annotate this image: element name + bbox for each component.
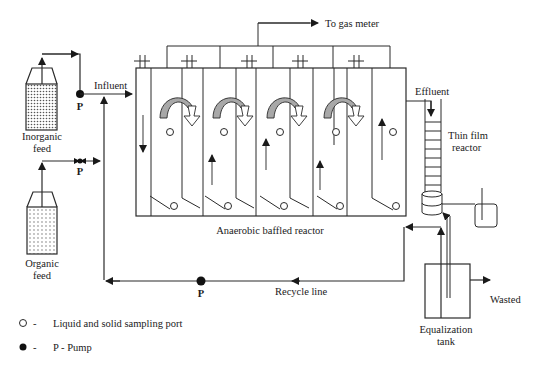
wasted-label: Wasted [490,294,521,305]
legend-dash-2: - [33,342,37,353]
legend-sampling-port: Liquid and solid sampling port [53,318,183,329]
pump-label-2: P [77,166,84,177]
filled-circle-icon [20,344,27,351]
abr-label: Anaerobic baffled reactor [216,225,324,236]
reactor-vent-markers [134,55,364,68]
open-circle-icon [20,320,27,327]
organic-feed-tank [27,161,100,254]
thin-film-label: Thin film [448,130,488,141]
side-vessel [475,204,497,227]
inorganic-feed-label: Inorganic [22,131,62,142]
organic-feed-label-2: feed [33,270,52,281]
vertical-flow-arrows [143,115,382,190]
pump-icon [197,277,206,286]
pump-icon [74,158,86,164]
legend: - Liquid and solid sampling port - P - P… [20,318,183,353]
organic-feed-label: Organic [25,258,59,269]
pump-label-1: P [77,101,84,112]
equalization-tank-label: Equalization [419,324,473,335]
influent-label: Influent [94,80,127,91]
inorganic-feed-label-2: feed [33,143,52,154]
thin-film-reactor [422,99,442,215]
gas-meter-label: To gas meter [325,18,380,29]
equalization-tank-label-2: tank [437,336,456,347]
legend-pump: P - Pump [53,342,92,353]
anaerobic-baffled-reactor [136,68,406,216]
pump-label-3: P [198,288,205,299]
flow-curve-arrows [160,98,364,126]
inorganic-feed-tank [26,54,80,130]
sampling-ports [167,129,400,210]
effluent-label: Effluent [415,86,449,97]
recycle-label: Recycle line [275,286,328,297]
effluent-line [406,101,431,112]
thin-film-label-2: reactor [452,142,482,153]
process-diagram: Inorganic feed P Influent P Organic feed… [0,0,541,371]
legend-dash-1: - [33,318,37,329]
